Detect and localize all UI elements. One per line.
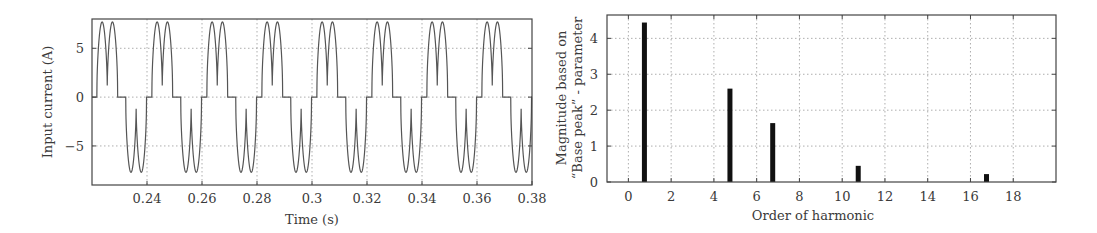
right-x-axis-label: Order of harmonic — [752, 208, 874, 223]
x-tick-label: 6 — [753, 189, 761, 204]
left-y-axis-label: Input current (A) — [40, 46, 55, 159]
right-y-axis-label-line2: “Base peak” - parameter — [570, 16, 585, 179]
harmonic-bar — [642, 23, 647, 182]
x-tick-label: 0.32 — [353, 191, 382, 206]
y-tick-label: 0 — [590, 175, 598, 190]
harmonic-bars — [642, 23, 989, 182]
harmonic-spectrum-chart: 02468101214161801234 Order of harmonic M… — [554, 15, 1056, 223]
x-tick-label: 0 — [624, 189, 632, 204]
left-x-axis-label: Time (s) — [285, 212, 339, 227]
y-tick-label: 4 — [590, 31, 598, 46]
y-tick-label: 1 — [590, 139, 598, 154]
y-tick-label: 3 — [590, 67, 598, 82]
y-tick-label: 2 — [590, 103, 598, 118]
x-tick-label: 4 — [710, 189, 718, 204]
x-tick-label: 0.28 — [243, 191, 272, 206]
x-tick-label: 18 — [1005, 189, 1022, 204]
x-tick-label: 2 — [667, 189, 675, 204]
input-current-chart: 0.240.260.280.30.320.340.360.38−505 Time… — [40, 19, 546, 227]
harmonic-bar — [770, 123, 775, 182]
x-tick-label: 0.26 — [188, 191, 217, 206]
x-tick-label: 0.24 — [133, 191, 162, 206]
x-tick-label: 16 — [962, 189, 979, 204]
harmonic-bar — [984, 174, 989, 182]
y-tick-label: 0 — [76, 90, 84, 105]
x-tick-label: 14 — [919, 189, 936, 204]
x-tick-label: 0.34 — [408, 191, 437, 206]
x-tick-label: 0.3 — [302, 191, 323, 206]
x-tick-label: 8 — [795, 189, 803, 204]
x-tick-label: 0.36 — [463, 191, 492, 206]
x-tick-label: 12 — [877, 189, 894, 204]
right-plot-frame — [607, 15, 1056, 182]
right-gridlines — [607, 15, 1056, 182]
harmonic-bar — [856, 166, 861, 182]
x-tick-label: 10 — [834, 189, 851, 204]
figure: 0.240.260.280.30.320.340.360.38−505 Time… — [0, 0, 1097, 233]
x-tick-label: 0.38 — [518, 191, 547, 206]
y-tick-label: −5 — [65, 139, 84, 154]
y-tick-label: 5 — [76, 41, 84, 56]
right-y-axis-label-line1: Magnitude based on — [554, 30, 569, 165]
harmonic-bar — [727, 89, 732, 182]
